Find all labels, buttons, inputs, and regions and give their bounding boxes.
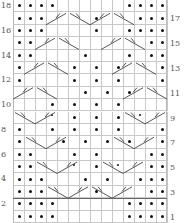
row-number-label: 5 [170,163,175,173]
row-number-label: 9 [170,114,175,124]
row-number-label: 8 [1,125,12,135]
cable-symbols [13,0,167,223]
right-cross-cable-icon [35,113,55,124]
left-cross-cable-icon [125,38,145,49]
row-number-label: 18 [1,1,12,11]
left-cross-cable-icon [125,113,145,124]
right-cross-cable-icon [112,63,132,74]
left-cross-cable-icon [15,113,35,124]
row-number-label: 1 [170,213,175,223]
row-number-label: 14 [1,51,12,61]
left-cross-cable-icon [92,187,112,198]
left-cross-cable-icon [37,88,57,99]
row-number-label: 2 [1,199,12,209]
right-cross-cable-icon [90,13,110,24]
row-number-label: 15 [170,39,180,49]
row-number-label: 12 [1,75,12,85]
right-cross-cable-icon [46,13,66,24]
left-cross-cable-icon [147,88,167,99]
right-cross-cable-icon [112,187,132,198]
right-cross-cable-icon [24,63,44,74]
right-cross-cable-icon [68,187,88,198]
left-cross-cable-icon [136,63,156,74]
left-cross-cable-icon [48,63,68,74]
row-number-label: 11 [170,89,180,99]
right-cross-cable-icon [145,113,165,124]
right-cross-cable-icon [123,162,143,173]
left-cross-cable-icon [114,137,134,148]
right-cross-cable-icon [57,162,77,173]
left-cross-cable-icon [70,13,90,24]
row-number-label: 17 [170,14,180,24]
left-cross-cable-icon [48,187,68,198]
section-divider [13,198,167,199]
row-number-label: 13 [170,64,180,74]
row-number-label: 4 [1,174,12,184]
row-number-label: 3 [170,188,175,198]
right-cross-cable-icon [101,38,121,49]
left-cross-cable-icon [26,137,46,148]
row-number-label: 6 [1,150,12,160]
right-cross-cable-icon [123,88,143,99]
left-cross-cable-icon [37,162,57,173]
left-cross-cable-icon [103,162,123,173]
row-number-label: 16 [1,26,12,36]
row-number-label: 10 [1,100,12,110]
right-cross-cable-icon [134,137,154,148]
right-cross-cable-icon [13,88,33,99]
left-cross-cable-icon [114,13,134,24]
left-cross-cable-icon [59,38,79,49]
row-number-label: 7 [170,138,175,148]
right-cross-cable-icon [35,38,55,49]
right-cross-cable-icon [46,137,66,148]
